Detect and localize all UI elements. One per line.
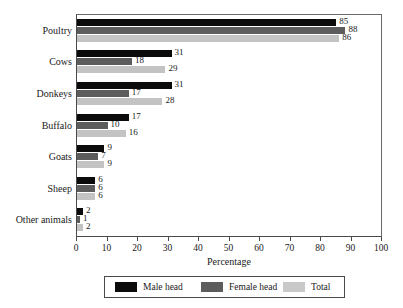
bar [77, 114, 129, 121]
bar-value-label: 16 [129, 127, 138, 138]
bar-group: 311829 [77, 50, 382, 74]
x-axis-tick-label: 0 [74, 242, 79, 254]
bar-chart-figure: PoultryCowsDonkeysBuffaloGoatsSheepOther… [0, 0, 403, 308]
bar-value-label: 9 [107, 158, 112, 169]
bar-value-label: 29 [168, 63, 177, 74]
bar-value-label: 31 [175, 79, 184, 90]
bar [77, 177, 95, 184]
x-axis-tick-label: 20 [132, 242, 142, 254]
y-axis-label-donkeys: Donkeys [0, 88, 72, 100]
bar [77, 145, 104, 152]
x-axis-tick [381, 237, 382, 241]
bar-group: 311728 [77, 82, 382, 106]
bar-value-label: 17 [132, 111, 141, 122]
bar [77, 19, 336, 26]
legend-label: Male head [143, 281, 183, 293]
x-axis-tick [168, 237, 169, 241]
x-axis-tick [320, 237, 321, 241]
bar [77, 185, 95, 192]
bar [77, 98, 162, 105]
bar-value-label: 7 [101, 150, 106, 161]
bar-value-label: 17 [132, 87, 141, 98]
x-axis-tick-label: 60 [254, 242, 264, 254]
x-axis-tick-label: 100 [374, 242, 388, 254]
bar-group: 979 [77, 145, 382, 169]
x-axis-tick [76, 237, 77, 241]
y-axis-label-goats: Goats [0, 151, 72, 163]
x-axis-tick [351, 237, 352, 241]
legend-label: Total [311, 281, 330, 293]
bar-value-label: 18 [135, 55, 144, 66]
y-axis-label-cows: Cows [0, 56, 72, 68]
bar [77, 224, 83, 231]
bar-group: 171016 [77, 114, 382, 138]
x-axis-tick [229, 237, 230, 241]
legend-item-total[interactable]: Total [283, 281, 330, 293]
legend-label: Female head [229, 281, 277, 293]
bar [77, 58, 132, 65]
x-axis-tick-label: 90 [346, 242, 356, 254]
y-axis-label-sheep: Sheep [0, 183, 72, 195]
bar-value-label: 31 [175, 47, 184, 58]
x-axis-tick [107, 237, 108, 241]
bar [77, 82, 172, 89]
bar [77, 153, 98, 160]
legend-swatch-icon [201, 282, 223, 292]
x-axis-tick [259, 237, 260, 241]
bar-value-label: 6 [98, 190, 103, 201]
bar [77, 193, 95, 200]
x-axis-tick-label: 10 [102, 242, 112, 254]
y-axis-label-other-animals: Other animals [0, 214, 72, 226]
bar-group: 212 [77, 208, 382, 232]
bar-groups: 858886311829311728171016979666212 [77, 15, 382, 236]
y-axis-category-labels: PoultryCowsDonkeysBuffaloGoatsSheepOther… [0, 15, 72, 236]
bar [77, 90, 129, 97]
bar-value-label: 10 [111, 119, 120, 130]
bar [77, 27, 345, 34]
bar-group: 858886 [77, 19, 382, 43]
bar-value-label: 86 [342, 32, 351, 43]
bar [77, 35, 339, 42]
x-axis-tick [137, 237, 138, 241]
y-axis-label-buffalo: Buffalo [0, 120, 72, 132]
bar-group: 666 [77, 177, 382, 201]
x-axis-tick [290, 237, 291, 241]
legend-item-female-head[interactable]: Female head [201, 281, 277, 293]
y-axis-label-poultry: Poultry [0, 25, 72, 37]
bar-value-label: 2 [86, 221, 91, 232]
x-axis-tick [198, 237, 199, 241]
bar [77, 216, 80, 223]
chart-legend: Male headFemale headTotal [104, 276, 345, 298]
x-axis-tick-label: 30 [163, 242, 173, 254]
legend-item-male-head[interactable]: Male head [115, 281, 183, 293]
x-axis-tick-label: 80 [315, 242, 325, 254]
bar [77, 161, 104, 168]
x-axis-title: Percentage [76, 255, 382, 268]
legend-swatch-icon [115, 282, 137, 292]
x-axis-tick-label: 40 [193, 242, 203, 254]
bar-value-label: 85 [339, 16, 348, 27]
x-axis-tick-label: 70 [285, 242, 295, 254]
bar [77, 50, 172, 57]
bar [77, 130, 126, 137]
x-axis-tick-label: 50 [224, 242, 234, 254]
bar [77, 66, 165, 73]
bar-value-label: 28 [165, 95, 174, 106]
legend-swatch-icon [283, 282, 305, 292]
bar-value-label: 9 [107, 142, 112, 153]
bar [77, 122, 108, 129]
